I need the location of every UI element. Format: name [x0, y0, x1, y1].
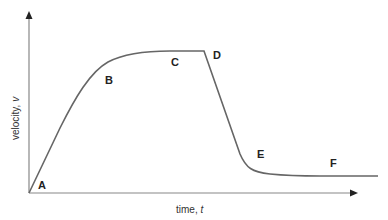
velocity-curve [29, 51, 378, 193]
x-axis-arrow-icon [350, 190, 358, 197]
point-label-e: E [257, 148, 264, 160]
point-label-f: F [330, 157, 337, 169]
point-label-b: B [105, 74, 113, 86]
velocity-time-graph: A B C D E F time, t velocity, v [0, 0, 388, 220]
point-label-d: D [213, 49, 221, 61]
y-axis-arrow-icon [26, 11, 33, 19]
x-axis-title: time, t [176, 204, 204, 215]
point-label-a: A [38, 179, 46, 191]
y-axis-title: velocity, v [10, 96, 21, 140]
point-label-c: C [171, 56, 179, 68]
